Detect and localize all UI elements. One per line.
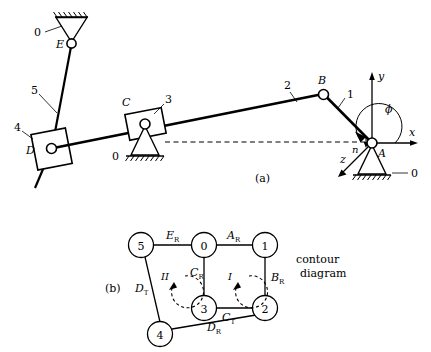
label-link4: 4 xyxy=(14,121,21,134)
link-2-body xyxy=(51,94,323,149)
loop-II-label: II xyxy=(160,271,170,282)
label-link5: 5 xyxy=(31,84,38,97)
contour-caption-line2: diagram xyxy=(300,267,347,280)
edge-label-AR: AR xyxy=(226,229,241,244)
edge-label-CT: CT xyxy=(222,311,235,326)
label-joint-D: D xyxy=(25,144,35,157)
loop-I-arrow xyxy=(233,276,268,308)
contour-node-1-label: 1 xyxy=(262,240,269,253)
label-link0-C: 0 xyxy=(112,150,119,163)
label-link2: 2 xyxy=(284,79,291,92)
joint-D-pin xyxy=(47,144,57,154)
joint-A-pin xyxy=(367,138,377,148)
joint-B-pin xyxy=(319,90,329,100)
label-link3: 3 xyxy=(165,93,172,106)
contour-node-3-label: 3 xyxy=(201,303,208,316)
caption-part-a: (a) xyxy=(255,172,270,185)
contour-node-2-label: 2 xyxy=(262,303,269,316)
joint-E-pin xyxy=(67,39,76,48)
contour-node-4-label: 4 xyxy=(157,329,164,342)
edge-label-ER: ER xyxy=(165,229,180,244)
edge-label-DR: DR xyxy=(206,321,222,336)
joint-C-pin xyxy=(140,119,150,129)
label-link0-E: 0 xyxy=(34,26,41,39)
figure-page: 0 E 5 4 D 3 C xyxy=(0,0,431,352)
label-joint-C: C xyxy=(122,96,131,109)
edge-label-BR: BR xyxy=(270,271,285,286)
caption-part-b: (b) xyxy=(105,282,121,295)
leader-1 xyxy=(338,98,345,108)
label-joint-A: A xyxy=(377,147,386,160)
contour-node-5-label: 5 xyxy=(138,240,145,253)
loop-II-arrow xyxy=(169,276,204,308)
label-joint-E: E xyxy=(55,38,64,51)
normal-label-n: n xyxy=(352,144,358,155)
mechanism-figure: 0 E 5 4 D 3 C xyxy=(0,0,431,352)
contour-node-0-label: 0 xyxy=(201,240,208,253)
edge-label-DT: DT xyxy=(134,282,149,297)
edge-label-CR: CR xyxy=(190,266,204,281)
ground-hatch-E xyxy=(54,12,89,17)
link-1-body xyxy=(324,95,372,144)
axis-label-x: x xyxy=(409,126,416,139)
label-joint-B: B xyxy=(317,74,326,87)
label-link0-A: 0 xyxy=(411,167,418,180)
label-link1: 1 xyxy=(347,88,354,101)
axis-label-z: z xyxy=(339,153,346,166)
leader-5 xyxy=(39,94,57,113)
axis-label-y: y xyxy=(377,70,385,83)
angle-label-phi: ϕ xyxy=(385,103,393,116)
leader-0-E xyxy=(45,26,62,32)
contour-caption-line1: contour xyxy=(296,253,340,266)
loop-I-label: I xyxy=(227,271,233,282)
